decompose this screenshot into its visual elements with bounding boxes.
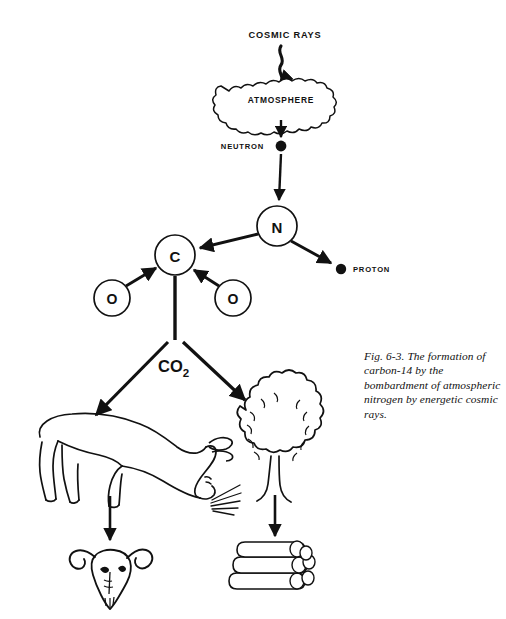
nitrogen-symbol: N bbox=[272, 219, 283, 236]
carbon-symbol: C bbox=[170, 248, 181, 265]
arrow-nitrogen-to-carbon bbox=[200, 234, 258, 248]
co2-subscript-text: 2 bbox=[183, 367, 189, 379]
cosmic-ray-wavy-arrow bbox=[280, 46, 283, 83]
atmosphere-label: ATMOSPHERE bbox=[248, 95, 314, 105]
caption-line-1: Fig. 6-3. The formation of bbox=[364, 350, 486, 362]
cosmic-rays-label: COSMIC RAYS bbox=[249, 30, 322, 40]
logs-illustration bbox=[229, 541, 315, 589]
proton-label: PROTON bbox=[353, 265, 390, 274]
neutron-dot bbox=[276, 141, 287, 152]
arrow-oxygen-left-to-carbon bbox=[126, 268, 156, 286]
arrow-co2-to-cow bbox=[96, 342, 168, 415]
oxygen-left-symbol: O bbox=[107, 291, 118, 307]
caption-line-2: carbon-14 by the bbox=[364, 364, 443, 376]
arrow-nitrogen-to-proton bbox=[291, 241, 331, 263]
tree-illustration bbox=[237, 370, 323, 502]
co2-formula-text: CO bbox=[158, 357, 183, 375]
caption-line-3: bombardment of bbox=[364, 379, 440, 391]
figure-carbon-14-formation: COSMIC RAYS ATMOSPHERE NEUTRON N PROTON … bbox=[0, 0, 506, 619]
atmosphere-cloud-shape bbox=[213, 79, 337, 135]
co2-label: CO2 bbox=[158, 357, 189, 379]
neutron-label: NEUTRON bbox=[221, 142, 264, 151]
oxygen-right-symbol: O bbox=[228, 291, 239, 307]
diagram-canvas: COSMIC RAYS ATMOSPHERE NEUTRON N PROTON … bbox=[0, 0, 506, 619]
proton-dot bbox=[336, 264, 346, 274]
arrow-co2-to-tree bbox=[183, 342, 245, 400]
arrow-neutron-to-nitrogen bbox=[279, 154, 281, 200]
figure-caption: Fig. 6-3. The formation of carbon-14 by … bbox=[364, 349, 506, 421]
arrow-oxygen-right-to-carbon bbox=[194, 270, 219, 286]
skull-illustration bbox=[70, 549, 153, 609]
cow-illustration bbox=[39, 413, 241, 515]
